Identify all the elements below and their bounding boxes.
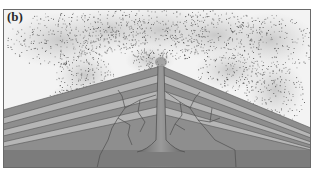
volcano-figure: (b): [0, 0, 317, 172]
panel-label: (b): [7, 10, 23, 23]
volcano-diagram: [0, 0, 317, 172]
